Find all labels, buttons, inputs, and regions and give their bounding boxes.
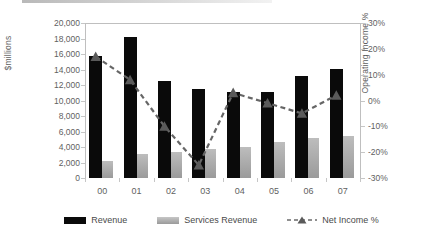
legend-item-services-revenue: Services Revenue xyxy=(157,215,257,225)
legend-item-net-income: Net Income % xyxy=(287,215,379,225)
y-axis-right-tick xyxy=(361,152,365,153)
y-axis-left-tick-label: 6,000 xyxy=(20,127,80,137)
legend-item-revenue: Revenue xyxy=(64,215,127,225)
y-axis-left-tick-label: 14,000 xyxy=(20,65,80,75)
net-income-marker xyxy=(331,90,341,100)
x-axis-tick xyxy=(154,178,155,182)
net-income-marker xyxy=(262,98,272,108)
x-axis-tick xyxy=(188,178,189,182)
y-axis-right-tick xyxy=(361,75,365,76)
y-axis-left-tick-label: 2,000 xyxy=(20,158,80,168)
y-axis-right-tick-label: 10% xyxy=(368,70,418,80)
y-axis-right-tick xyxy=(361,126,365,127)
y-axis-left-tick-label: 12,000 xyxy=(20,80,80,90)
y-axis-right-tick-label: 20% xyxy=(368,44,418,54)
y-axis-left-tick-label: 10,000 xyxy=(20,96,80,106)
y-axis-right-tick-label: 0% xyxy=(368,96,418,106)
y-axis-right-tick xyxy=(361,178,365,179)
y-axis-right-tick-label: -20% xyxy=(368,147,418,157)
net-income-line-marker-icon xyxy=(287,215,317,225)
net-income-line xyxy=(96,57,337,166)
x-axis-tick xyxy=(223,178,224,182)
y-axis-right-tick-label: -30% xyxy=(368,173,418,183)
chart-container: $millions Operating Income % 02,0004,000… xyxy=(0,0,443,240)
x-axis-tick-label: 07 xyxy=(323,186,363,196)
chart-legend: Revenue Services Revenue Net Income % xyxy=(0,205,443,235)
x-axis-tick xyxy=(326,178,327,182)
x-axis-tick xyxy=(257,178,258,182)
services-revenue-swatch-icon xyxy=(157,217,179,224)
header-band xyxy=(22,0,272,3)
y-axis-left-tick-label: 18,000 xyxy=(20,34,80,44)
legend-label-net-income: Net Income % xyxy=(322,215,379,225)
y-axis-right-tick-label: -10% xyxy=(368,121,418,131)
y-axis-right-tick xyxy=(361,49,365,50)
x-axis-tick xyxy=(360,178,361,182)
legend-label-services-revenue: Services Revenue xyxy=(184,215,257,225)
revenue-swatch-icon xyxy=(64,217,86,224)
plot-area: 02,0004,0006,0008,00010,00012,00014,0001… xyxy=(85,23,360,178)
y-axis-left-tick-label: 8,000 xyxy=(20,111,80,121)
x-axis-tick xyxy=(119,178,120,182)
x-axis-tick xyxy=(85,178,86,182)
y-axis-right-tick xyxy=(361,101,365,102)
y-axis-left-tick-label: 16,000 xyxy=(20,49,80,59)
net-income-marker xyxy=(90,51,100,61)
y-axis-left-tick-label: 20,000 xyxy=(20,18,80,28)
y-axis-left-tick-label: 0 xyxy=(20,173,80,183)
net-income-marker xyxy=(228,88,238,98)
legend-label-revenue: Revenue xyxy=(91,215,127,225)
y-axis-left-title: $millions xyxy=(3,0,13,113)
y-axis-right-tick-label: 30% xyxy=(368,18,418,28)
y-axis-right-tick xyxy=(361,23,365,24)
x-axis-tick xyxy=(291,178,292,182)
net-income-line-layer xyxy=(85,23,360,178)
y-axis-left-tick-label: 4,000 xyxy=(20,142,80,152)
